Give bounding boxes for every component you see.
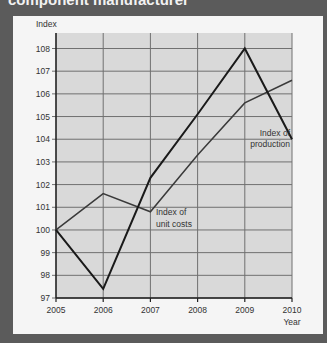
x-tick-label: 2010 — [283, 305, 302, 315]
y-tick-label: 99 — [41, 248, 51, 258]
y-tick-label: 100 — [36, 225, 50, 235]
y-tick-label: 105 — [36, 112, 50, 122]
line-chart: 9798991001011021031041051061071082005200… — [0, 0, 327, 343]
x-tick-label: 2007 — [141, 305, 160, 315]
y-tick-label: 98 — [41, 270, 51, 280]
x-tick-label: 2009 — [235, 305, 254, 315]
annotation-unit-costs-line2: unit costs — [156, 219, 192, 229]
y-tick-label: 108 — [36, 44, 50, 54]
annotation-production-line1: Index of — [260, 128, 291, 138]
y-tick-label: 106 — [36, 89, 50, 99]
y-tick-label: 107 — [36, 66, 50, 76]
x-axis-label: Year — [283, 317, 300, 327]
y-tick-label: 104 — [36, 134, 50, 144]
y-tick-label: 102 — [36, 180, 50, 190]
y-tick-label: 97 — [41, 293, 51, 303]
x-tick-label: 2008 — [188, 305, 207, 315]
annotation-unit-costs-line1: Index of — [156, 207, 187, 217]
y-tick-label: 101 — [36, 202, 50, 212]
annotation-production-line2: production — [250, 139, 290, 149]
y-axis-label: Index — [36, 19, 58, 29]
x-tick-label: 2005 — [47, 305, 66, 315]
y-tick-label: 103 — [36, 157, 50, 167]
x-tick-label: 2006 — [94, 305, 113, 315]
